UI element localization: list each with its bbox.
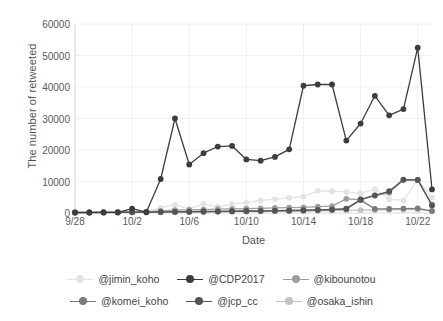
data-point [429,208,435,214]
data-point [229,143,235,149]
data-point [401,106,407,112]
data-point [329,206,335,212]
data-point [343,206,349,212]
series-line [75,180,432,212]
data-point [372,186,378,192]
data-series-layer [72,45,435,216]
data-point [401,177,407,183]
data-point [343,138,349,144]
data-point [386,188,392,194]
data-point [229,208,235,214]
data-point [358,121,364,127]
data-point [315,82,321,88]
x-tick-label: 10/6 [180,216,199,227]
data-point [358,197,364,203]
data-point [415,205,421,211]
plot-area [75,24,432,213]
data-point [343,189,349,195]
data-point [329,82,335,88]
data-point [243,157,249,163]
legend-label: @komei_koho [101,295,168,307]
data-point [301,83,307,89]
y-tick-label: 20000 [24,145,70,156]
x-tick-label: 10/18 [348,216,373,227]
legend-dot [76,275,84,283]
data-point [429,203,435,209]
data-point [301,207,307,213]
legend-marker-icon [70,296,96,306]
x-tick-label: 10/10 [234,216,259,227]
data-point [258,208,264,214]
data-point [386,206,392,212]
data-point [372,93,378,99]
legend-dot [79,297,87,305]
x-tick-label: 10/14 [291,216,316,227]
y-tick-label: 30000 [24,113,70,124]
legend-marker-icon [67,274,93,284]
data-point [215,144,221,150]
data-point [358,191,364,197]
legend-label: @jimin_koho [98,273,159,285]
legend-dot [195,297,203,305]
plot-svg [75,24,432,213]
data-point [401,198,407,204]
legend-item[interactable]: @jimin_koho [67,273,159,285]
data-point [272,154,278,160]
legend-marker-icon [177,274,203,284]
data-point [86,210,92,216]
data-point [158,176,164,182]
data-point [243,208,249,214]
y-tick-label: 40000 [24,82,70,93]
data-point [272,208,278,214]
data-point [286,207,292,213]
data-point [429,186,435,192]
retweet-line-chart: The number of retweeted 0100002000030000… [0,0,443,321]
data-point [358,207,364,213]
legend-item[interactable]: @jcp_cc [186,295,257,307]
data-point [258,158,264,164]
gridlines [75,24,432,213]
legend-row: @jimin_koho@CDP2017@kibounotou [0,268,443,290]
data-point [401,206,407,212]
legend-marker-icon [283,274,309,284]
data-point [229,201,235,207]
data-point [301,194,307,200]
x-tick-label: 10/2 [122,216,141,227]
data-point [201,209,207,215]
data-point [415,45,421,51]
data-point [272,196,278,202]
data-point [386,197,392,203]
data-point [72,210,78,216]
data-point [286,146,292,152]
data-point [101,210,107,216]
legend-label: @osaka_ishin [307,295,373,307]
legend-item[interactable]: @kibounotou [283,273,376,285]
data-point [172,116,178,122]
y-tick-label: 0 [24,208,70,219]
x-tick-label: 10/22 [405,216,430,227]
data-point [315,207,321,213]
legend-item[interactable]: @komei_koho [70,295,168,307]
data-point [186,209,192,215]
data-point [144,209,150,215]
legend-dot [186,275,194,283]
legend-marker-icon [276,296,302,306]
data-point [415,177,421,183]
series-line [75,180,432,213]
x-axis-tick-labels: 9/2810/210/610/1010/1410/1810/22 [75,216,432,232]
series-line [75,48,432,213]
y-tick-label: 60000 [24,19,70,30]
data-point [315,188,321,194]
data-point [372,206,378,212]
data-point [243,200,249,206]
legend-dot [292,275,300,283]
data-point [115,209,121,215]
legend-label: @jcp_cc [217,295,257,307]
legend-item[interactable]: @osaka_ishin [276,295,373,307]
y-tick-label: 10000 [24,176,70,187]
x-tick-label: 9/28 [65,216,84,227]
legend-marker-icon [186,296,212,306]
chart-legend: @jimin_koho@CDP2017@kibounotou@komei_koh… [0,268,443,312]
data-point [372,192,378,198]
legend-item[interactable]: @CDP2017 [177,273,264,285]
